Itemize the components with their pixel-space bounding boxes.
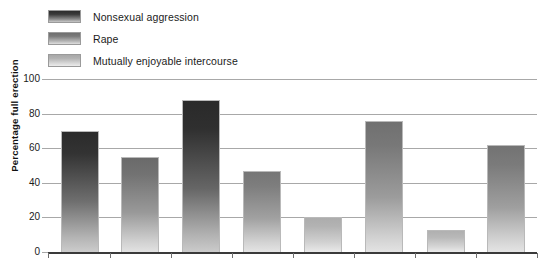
gridline-80 xyxy=(48,114,537,115)
y-tick-20: 20 xyxy=(10,211,40,223)
y-tick-label: 20 xyxy=(10,211,40,222)
y-tick-40: 40 xyxy=(10,177,40,189)
gridline-60 xyxy=(48,148,537,149)
x-tick-mark xyxy=(537,253,538,258)
bar-3 xyxy=(182,100,220,252)
bar-7 xyxy=(427,230,465,252)
y-tick-mark-80 xyxy=(42,114,48,115)
y-tick-60: 60 xyxy=(10,142,40,154)
y-tick-0: 0 xyxy=(10,246,40,258)
x-tick-mark xyxy=(476,253,477,258)
y-tick-label: 40 xyxy=(10,177,40,188)
plot-area: Percentage full erection 100 80 60 40 20… xyxy=(0,0,543,266)
x-tick-mark xyxy=(48,253,49,258)
x-tick-mark xyxy=(293,253,294,258)
x-tick-mark xyxy=(110,253,111,258)
bar-8 xyxy=(487,145,525,252)
y-tick-80: 80 xyxy=(10,108,40,120)
y-tick-mark-100 xyxy=(42,79,48,80)
y-tick-label: 0 xyxy=(10,246,40,257)
y-tick-mark-40 xyxy=(42,183,48,184)
chart-figure: Nonsexual aggression Rape Mutually enjoy… xyxy=(0,0,543,266)
x-tick-mark xyxy=(354,253,355,258)
bar-4 xyxy=(243,171,281,252)
y-tick-label: 80 xyxy=(10,108,40,119)
bar-6 xyxy=(365,121,403,252)
x-tick-mark xyxy=(232,253,233,258)
bar-5 xyxy=(304,217,342,252)
y-tick-label: 60 xyxy=(10,142,40,153)
y-tick-label: 100 xyxy=(10,73,40,84)
bar-1 xyxy=(61,131,99,252)
gridline-100 xyxy=(48,79,537,80)
bar-2 xyxy=(121,157,159,252)
x-tick-mark xyxy=(415,253,416,258)
x-tick-mark xyxy=(171,253,172,258)
y-tick-100: 100 xyxy=(10,73,40,85)
y-tick-mark-60 xyxy=(42,148,48,149)
y-tick-mark-20 xyxy=(42,217,48,218)
